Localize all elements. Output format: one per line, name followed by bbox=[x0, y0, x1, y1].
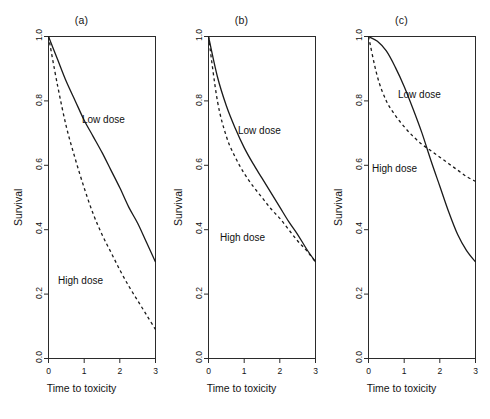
panel-b-low-dose-label: Low dose bbox=[238, 125, 281, 136]
panel-b-xtick-2: 2 bbox=[273, 366, 287, 376]
panel-a-xtick-2: 2 bbox=[113, 366, 127, 376]
panel-a-xtick-0: 0 bbox=[42, 366, 56, 376]
panel-c-xtick-2: 2 bbox=[433, 366, 447, 376]
panel-c: (c) Low dose High dose 0.0 0.2 0.4 0.6 bbox=[320, 0, 483, 419]
panel-c-high-dose-curve bbox=[369, 37, 476, 182]
panel-a-ytick-1: 0.2 bbox=[34, 282, 44, 304]
panel-b-plot bbox=[160, 0, 323, 419]
panel-c-xtick-1: 1 bbox=[397, 366, 411, 376]
panel-b-ylabel: Survival bbox=[172, 189, 184, 226]
panel-c-ytick-4: 0.8 bbox=[354, 89, 364, 111]
panel-a-ytick-5: 1.0 bbox=[34, 24, 44, 46]
panel-b-xtick-1: 1 bbox=[237, 366, 251, 376]
panel-a-ytick-4: 0.8 bbox=[34, 89, 44, 111]
panel-b: (b) Low dose High dose 0.0 0.2 0.4 0.6 bbox=[160, 0, 323, 419]
panel-a-ytick-0: 0.0 bbox=[34, 346, 44, 368]
panel-a-plot bbox=[0, 0, 163, 419]
survival-curves-figure: (a) Low dose High dose 0.0 0.2 0.4 bbox=[0, 0, 490, 419]
panel-c-ytick-5: 1.0 bbox=[354, 24, 364, 46]
panel-b-low-dose-curve bbox=[209, 37, 316, 262]
panel-a-xlabel: Time to toxicity bbox=[0, 382, 163, 394]
panel-b-xlabel: Time to toxicity bbox=[160, 382, 323, 394]
panel-c-xtick-0: 0 bbox=[362, 366, 376, 376]
panel-b-ytick-4: 0.8 bbox=[194, 89, 204, 111]
panel-c-ylabel: Survival bbox=[332, 189, 344, 226]
panel-b-xtick-0: 0 bbox=[202, 366, 216, 376]
panel-c-xtick-3: 3 bbox=[469, 366, 483, 376]
panel-b-high-dose-label: High dose bbox=[220, 232, 265, 243]
panel-a-ytick-3: 0.6 bbox=[34, 153, 44, 175]
panel-c-high-dose-label: High dose bbox=[372, 163, 417, 174]
panel-a-ytick-2: 0.4 bbox=[34, 217, 44, 239]
panel-b-ytick-0: 0.0 bbox=[194, 346, 204, 368]
panel-a-low-dose-curve bbox=[49, 37, 156, 262]
panel-a-low-dose-label: Low dose bbox=[82, 114, 125, 125]
panel-a-high-dose-label: High dose bbox=[58, 275, 103, 286]
panel-a-ylabel: Survival bbox=[12, 189, 24, 226]
panel-b-ytick-2: 0.4 bbox=[194, 217, 204, 239]
panel-c-low-dose-curve bbox=[369, 37, 476, 262]
panel-c-low-dose-label: Low dose bbox=[398, 89, 441, 100]
panel-c-xlabel: Time to toxicity bbox=[320, 382, 483, 394]
panel-b-ytick-3: 0.6 bbox=[194, 153, 204, 175]
panel-a-xtick-1: 1 bbox=[77, 366, 91, 376]
panel-b-ytick-5: 1.0 bbox=[194, 24, 204, 46]
panel-c-ytick-0: 0.0 bbox=[354, 346, 364, 368]
panel-c-plot bbox=[320, 0, 483, 419]
panel-c-ytick-2: 0.4 bbox=[354, 217, 364, 239]
panel-a: (a) Low dose High dose 0.0 0.2 0.4 bbox=[0, 0, 163, 419]
panel-c-ytick-3: 0.6 bbox=[354, 153, 364, 175]
panel-b-high-dose-curve bbox=[209, 37, 316, 262]
panel-b-ytick-1: 0.2 bbox=[194, 282, 204, 304]
panel-c-ytick-1: 0.2 bbox=[354, 282, 364, 304]
